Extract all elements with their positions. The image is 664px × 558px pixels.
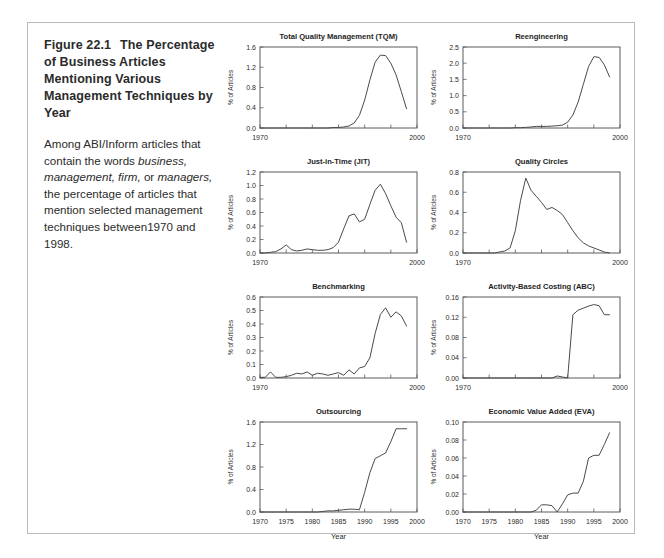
chart-panel-eva: Economic Value Added (EVA)0.000.020.040.… (427, 404, 630, 554)
y-tick-label: 0.6 (246, 294, 256, 301)
y-tick-label: 0.10 (445, 419, 459, 426)
y-tick-label: 1.2 (246, 441, 256, 448)
y-tick-label: 0.0 (246, 125, 256, 132)
data-series-line (260, 55, 407, 128)
y-tick-label: 0.0 (246, 375, 256, 382)
chart-panel-outsourcing: Outsourcing0.00.40.81.21.6% of Articles1… (224, 404, 427, 554)
data-series-line (260, 308, 407, 378)
x-tick-label: 1970 (455, 134, 471, 141)
plot-frame (463, 422, 620, 512)
x-tick-label: 1970 (455, 518, 471, 525)
y-tick-label: 0.00 (445, 509, 459, 516)
chart-svg: Reengineering0.00.51.01.52.02.5% of Arti… (427, 29, 630, 154)
y-tick-label: 0.5 (449, 108, 459, 115)
x-tick-label: 1980 (508, 518, 524, 525)
chart-svg: Benchmarking0.00.10.20.30.40.50.6% of Ar… (224, 279, 427, 404)
y-tick-label: 0.2 (246, 236, 256, 243)
y-tick-label: 2.0 (449, 60, 459, 67)
chart-title: Quality Circles (515, 157, 568, 166)
x-tick-label: 1970 (252, 384, 268, 391)
x-tick-label: 2000 (409, 259, 425, 266)
y-tick-label: 0.4 (449, 209, 459, 216)
plot-frame (463, 172, 620, 253)
y-tick-label: 1.2 (246, 169, 256, 176)
x-tick-label: 1970 (252, 518, 268, 525)
x-tick-label: 1985 (534, 518, 550, 525)
x-tick-label: 2000 (409, 134, 425, 141)
chart-title: Total Quality Management (TQM) (280, 32, 398, 41)
y-tick-label: 1.6 (246, 419, 256, 426)
chart-svg: Just-in-Time (JIT)0.00.20.40.60.81.01.2%… (224, 154, 427, 279)
y-tick-label: 1.6 (246, 44, 256, 51)
y-tick-label: 0.1 (246, 361, 256, 368)
y-tick-label: 1.2 (246, 64, 256, 71)
x-tick-label: 1995 (586, 518, 602, 525)
x-tick-label: 2000 (409, 384, 425, 391)
caption-segment-2: or (141, 170, 158, 183)
charts-grid: Total Quality Management (TQM)0.00.40.81… (224, 29, 630, 529)
plot-frame (463, 297, 620, 378)
y-axis-label: % of Articles (227, 320, 234, 355)
x-tick-label: 2000 (612, 134, 628, 141)
y-tick-label: 0.8 (246, 196, 256, 203)
y-axis-label: % of Articles (430, 70, 437, 105)
y-tick-label: 0.08 (445, 334, 459, 341)
y-tick-label: 0.8 (246, 84, 256, 91)
figure-caption-column: Figure 22.1The Percentage of Business Ar… (44, 37, 224, 252)
chart-title: Just-in-Time (JIT) (307, 157, 371, 166)
y-tick-label: 0.00 (445, 375, 459, 382)
chart-title: Outsourcing (316, 407, 362, 416)
data-series-line (463, 178, 610, 253)
y-tick-label: 1.5 (449, 76, 459, 83)
x-tick-label: 2000 (612, 259, 628, 266)
chart-svg: Total Quality Management (TQM)0.00.40.81… (224, 29, 427, 154)
x-tick-label: 2000 (612, 384, 628, 391)
y-tick-label: 0.2 (246, 348, 256, 355)
plot-frame (260, 47, 417, 128)
figure-heading: Figure 22.1The Percentage of Business Ar… (44, 37, 224, 122)
chart-panel-tqm: Total Quality Management (TQM)0.00.40.81… (224, 29, 427, 154)
y-tick-label: 0.12 (445, 314, 459, 321)
chart-svg: Quality Circles0.00.20.40.60.8% of Artic… (427, 154, 630, 279)
data-series-line (260, 184, 407, 253)
y-tick-label: 0.3 (246, 334, 256, 341)
x-tick-label: 1990 (560, 518, 576, 525)
chart-title: Economic Value Added (EVA) (489, 407, 595, 416)
x-axis-label: Year (331, 532, 346, 541)
y-tick-label: 0.4 (246, 223, 256, 230)
chart-panel-abc: Activity-Based Costing (ABC)0.000.040.08… (427, 279, 630, 404)
y-tick-label: 0.16 (445, 294, 459, 301)
y-tick-label: 0.4 (246, 104, 256, 111)
y-tick-label: 0.5 (246, 307, 256, 314)
x-tick-label: 1975 (481, 518, 497, 525)
chart-panel-quality-circles: Quality Circles0.00.20.40.60.8% of Artic… (427, 154, 630, 279)
data-series-line (463, 433, 610, 512)
y-tick-label: 0.8 (246, 464, 256, 471)
x-tick-label: 1970 (252, 259, 268, 266)
data-series-line (463, 57, 610, 128)
y-axis-label: % of Articles (430, 195, 437, 230)
figure-caption-body: Among ABI/Inform articles that contain t… (44, 136, 224, 252)
figure-container: Figure 22.1The Percentage of Business Ar… (27, 22, 635, 534)
y-tick-label: 0.08 (445, 437, 459, 444)
y-tick-label: 0.0 (449, 250, 459, 257)
y-tick-label: 1.0 (449, 92, 459, 99)
chart-panel-benchmarking: Benchmarking0.00.10.20.30.40.50.6% of Ar… (224, 279, 427, 404)
y-tick-label: 0.06 (445, 455, 459, 462)
chart-panel-jit: Just-in-Time (JIT)0.00.20.40.60.81.01.2%… (224, 154, 427, 279)
x-axis-label: Year (534, 532, 549, 541)
chart-svg: Outsourcing0.00.40.81.21.6% of Articles1… (224, 404, 427, 554)
y-axis-label: % of Articles (430, 320, 437, 355)
y-tick-label: 0.8 (449, 169, 459, 176)
y-axis-label: % of Articles (227, 70, 234, 105)
chart-svg: Activity-Based Costing (ABC)0.000.040.08… (427, 279, 630, 404)
chart-title: Benchmarking (312, 282, 365, 291)
chart-panel-reengineering: Reengineering0.00.51.01.52.02.5% of Arti… (427, 29, 630, 154)
x-tick-label: 1985 (331, 518, 347, 525)
y-tick-label: 0.4 (246, 321, 256, 328)
data-series-line (463, 305, 610, 378)
caption-italic-2: managers, (157, 170, 212, 183)
x-tick-label: 1975 (278, 518, 294, 525)
y-tick-label: 0.04 (445, 473, 459, 480)
y-tick-label: 0.4 (246, 486, 256, 493)
